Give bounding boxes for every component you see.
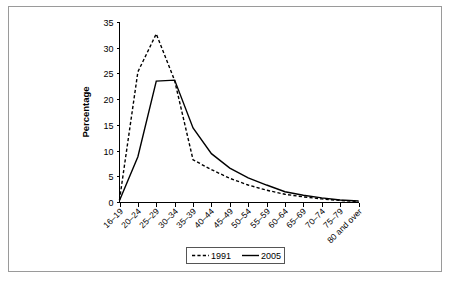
y-tick-label: 15	[103, 121, 113, 131]
data-series-group	[120, 34, 359, 202]
x-axis: 16–1920–2425–2930–3435–3940–4445–4950–54…	[101, 203, 364, 246]
series-line-1991	[120, 34, 359, 202]
series-line-2005	[120, 80, 359, 201]
x-tick-label: 25–29	[137, 206, 161, 230]
legend-label-2005: 2005	[261, 251, 281, 261]
legend-label-1991: 1991	[211, 251, 231, 261]
y-tick-label: 30	[103, 44, 113, 54]
y-axis-title: Percentage	[80, 86, 91, 137]
y-tick-label: 20	[103, 95, 113, 105]
y-axis-tick-labels: 05101520253035	[103, 18, 113, 208]
x-tick-label: 40–44	[192, 206, 216, 230]
y-tick-label: 25	[103, 69, 113, 79]
y-tick-label: 35	[103, 18, 113, 28]
chart-legend: 19912005	[187, 248, 285, 264]
y-tick-label: 10	[103, 147, 113, 157]
x-axis-tick-labels: 16–1920–2425–2930–3435–3940–4445–4950–54…	[101, 206, 364, 245]
y-axis: 05101520253035 Percentage	[80, 18, 120, 208]
x-axis-ticks	[121, 203, 360, 207]
x-tick-label: 50–54	[229, 206, 253, 230]
y-tick-label: 0	[108, 198, 113, 208]
x-tick-label: 65–69	[284, 206, 308, 230]
y-tick-label: 5	[108, 172, 113, 182]
line-chart: 05101520253035 Percentage 16–1920–2425–2…	[0, 0, 452, 281]
